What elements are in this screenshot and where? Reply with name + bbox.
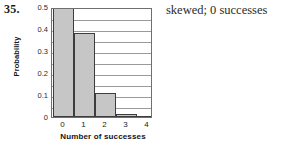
y-tick-label: 0.4 <box>38 26 48 34</box>
y-tick-label: 0.1 <box>38 92 48 100</box>
x-axis-tick-labels: 01234 <box>51 120 152 132</box>
x-axis-title: Number of successes <box>38 132 168 141</box>
y-axis-tick-labels: 0.50.40.30.20.10 <box>28 0 48 147</box>
y-tick-label: 0 <box>44 114 48 122</box>
y-tick-label: 0.5 <box>38 4 48 12</box>
x-tick-label: 3 <box>118 120 134 130</box>
y-axis-title: Probability <box>12 27 21 87</box>
plot-area <box>51 8 152 118</box>
probability-bar-chart: Probability 0.50.40.30.20.10 01234 Numbe… <box>0 0 200 147</box>
bar <box>74 33 95 117</box>
bar-series <box>52 9 151 117</box>
bar <box>95 93 116 117</box>
bar <box>53 8 74 117</box>
y-tick-label: 0.2 <box>38 70 48 78</box>
y-tick-label: 0.3 <box>38 48 48 56</box>
x-tick-label: 2 <box>97 120 113 130</box>
bar <box>137 116 152 117</box>
x-tick-label: 1 <box>76 120 92 130</box>
x-tick-label: 4 <box>139 120 155 130</box>
x-tick-label: 0 <box>55 120 71 130</box>
bar <box>116 114 137 117</box>
